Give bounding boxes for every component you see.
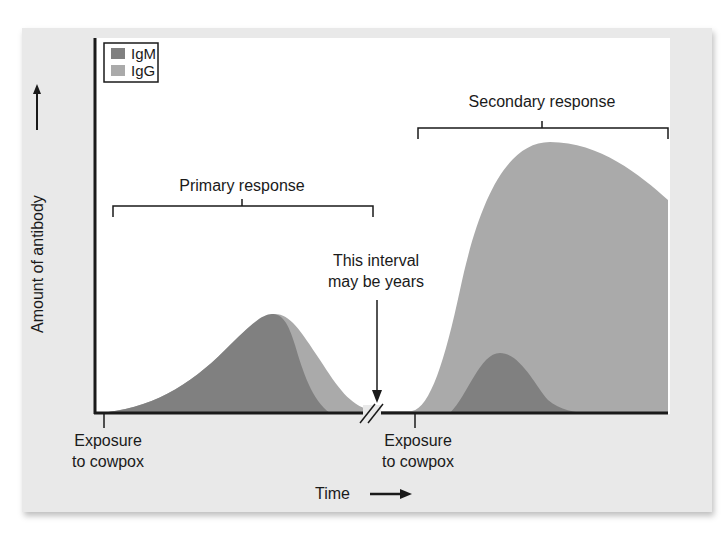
exposure1-label-line1: Exposure xyxy=(74,432,142,449)
antibody-response-diagram: IgM IgG Amount of antibody Primary respo… xyxy=(0,0,723,547)
secondary-response-label: Secondary response xyxy=(469,93,616,110)
legend: IgM IgG xyxy=(104,43,158,82)
y-arrow-icon xyxy=(33,84,41,130)
legend-igg-label: IgG xyxy=(131,62,155,79)
igm-swatch-icon xyxy=(111,48,125,59)
exposure2-label-line2: to cowpox xyxy=(382,453,454,470)
legend-igm-label: IgM xyxy=(131,45,156,62)
y-axis-label: Amount of antibody xyxy=(29,195,46,333)
exposure2-label-line1: Exposure xyxy=(384,432,452,449)
exposure1-label-line2: to cowpox xyxy=(72,453,144,470)
x-axis-label: Time xyxy=(315,485,350,502)
igg-swatch-icon xyxy=(111,65,125,76)
interval-label-line2: may be years xyxy=(328,273,424,290)
interval-label-line1: This interval xyxy=(333,252,419,269)
x-arrow-icon xyxy=(370,489,412,499)
primary-response-label: Primary response xyxy=(179,177,304,194)
axis-break-icon xyxy=(360,404,383,423)
